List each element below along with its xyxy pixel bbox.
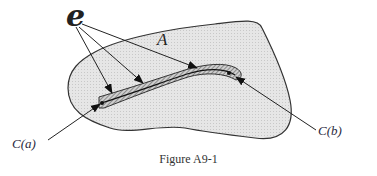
point-cb-dot bbox=[227, 71, 231, 75]
ca-arrow bbox=[48, 104, 100, 140]
figure-caption: Figure A9-1 bbox=[0, 152, 377, 167]
figure: e A C(a) C(b) Figure A9-1 bbox=[0, 0, 377, 176]
region-label: A bbox=[157, 30, 167, 50]
curve-family-label: e bbox=[66, 0, 85, 33]
end-point-label: C(b) bbox=[318, 123, 342, 139]
point-ca-dot bbox=[100, 101, 104, 105]
start-point-label: C(a) bbox=[12, 136, 36, 152]
diagram-canvas bbox=[0, 0, 377, 176]
